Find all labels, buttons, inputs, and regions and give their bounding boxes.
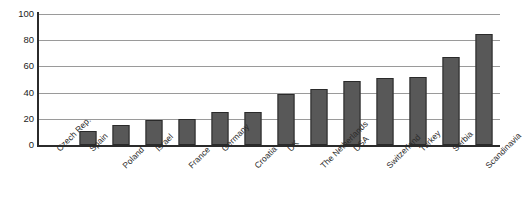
bar-slot — [204, 14, 237, 145]
y-tick-label: 40 — [0, 88, 34, 98]
bar-slot — [467, 14, 500, 145]
y-tick-label: 80 — [0, 35, 34, 45]
bar[interactable] — [376, 78, 393, 145]
x-category-label: France — [187, 145, 212, 170]
x-category-label: Croatia — [253, 145, 278, 170]
x-category-label: Poland — [121, 145, 146, 170]
bar[interactable] — [475, 34, 492, 145]
y-axis-tick-labels: 020406080100 — [0, 14, 34, 145]
bar-slot — [270, 14, 303, 145]
bar-slot — [434, 14, 467, 145]
x-axis-category-labels: Czech Rep.SpainPolandIsraelFranceGermany… — [39, 147, 500, 214]
bar[interactable] — [179, 119, 196, 145]
y-tick-label: 0 — [0, 140, 34, 150]
bar[interactable] — [442, 57, 459, 145]
bar-slot — [171, 14, 204, 145]
bar[interactable] — [310, 89, 327, 145]
y-tick-label: 100 — [0, 9, 34, 19]
y-tick-label: 20 — [0, 114, 34, 124]
bar-slot — [138, 14, 171, 145]
bar-slot — [368, 14, 401, 145]
bar[interactable] — [113, 125, 130, 145]
bar-slot — [401, 14, 434, 145]
bar-slot — [39, 14, 72, 145]
bars-layer — [39, 14, 500, 145]
bar-slot — [302, 14, 335, 145]
bar-slot — [105, 14, 138, 145]
y-tick-label: 60 — [0, 62, 34, 72]
bar[interactable] — [277, 94, 294, 145]
